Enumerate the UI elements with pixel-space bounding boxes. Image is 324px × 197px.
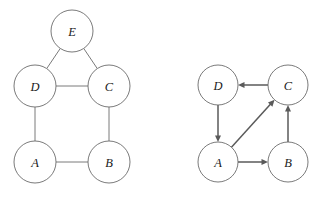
- graphs-svg: EDCAB DCAB: [0, 0, 324, 197]
- arrowhead-b-to-c-icon: [285, 105, 291, 112]
- arrowhead-a-to-b-icon: [262, 159, 269, 165]
- edge-e-c: [84, 48, 98, 68]
- right-graph: DCAB: [198, 65, 308, 182]
- left-graph: EDCAB: [14, 10, 130, 183]
- arrowhead-d-to-a-icon: [215, 136, 221, 143]
- node-label-a: A: [213, 156, 222, 170]
- figure-canvas: EDCAB DCAB: [0, 0, 324, 197]
- node-label-c: C: [284, 79, 293, 93]
- edge-e-d: [47, 48, 61, 68]
- node-label-b: B: [105, 156, 113, 170]
- node-label-a: A: [30, 156, 39, 170]
- node-label-d: D: [29, 80, 39, 94]
- node-label-c: C: [105, 80, 114, 94]
- edge-a-c: [231, 104, 270, 147]
- arrowhead-c-to-d-icon: [238, 82, 245, 88]
- node-label-b: B: [284, 156, 292, 170]
- node-label-e: E: [67, 25, 76, 39]
- node-label-d: D: [212, 79, 222, 93]
